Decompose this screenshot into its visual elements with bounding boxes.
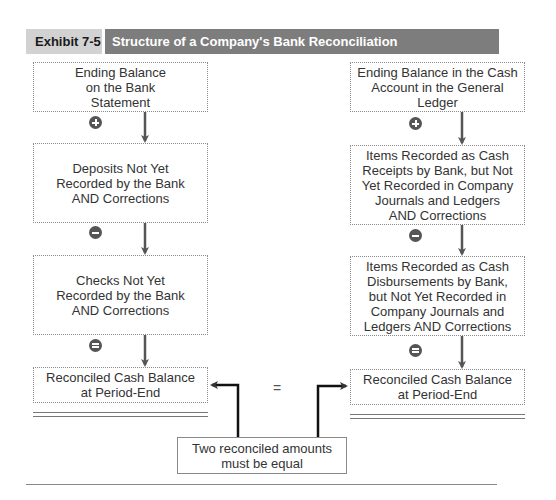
equals-sign: = <box>273 380 281 396</box>
bottom-rule <box>26 484 497 485</box>
note-box: Two reconciled amounts must be equal <box>177 437 347 474</box>
connector-arrows <box>0 0 556 500</box>
